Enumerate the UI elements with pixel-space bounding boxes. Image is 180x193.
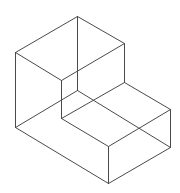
edge-left-top-to-inner-front-top: [16, 53, 62, 81]
edge-step-corner-to-lower-right-top: [125, 83, 171, 110]
diagram-canvas: [0, 0, 180, 193]
edge-bottom-to-lower-right-bottom: [109, 148, 171, 184]
edge-left-bottom-to-bottom: [16, 128, 109, 184]
edge-inner-front-bottom-to-front-step-top: [62, 119, 109, 147]
l-block-wireframe: [0, 0, 180, 193]
edge-top-to-right-top: [78, 17, 125, 44]
edge-top-to-left-top: [16, 17, 78, 53]
edge-right-top-to-inner-front-top: [62, 44, 125, 81]
edge-hidden-center-to-lower-right-bottom: [78, 91, 171, 148]
